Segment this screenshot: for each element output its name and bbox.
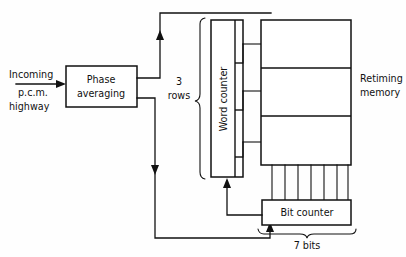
diagram-canvas: Incoming p.c.m. highway Phase averaging … bbox=[0, 0, 406, 257]
wordcounter-to-memory-stubs bbox=[243, 44, 261, 157]
retiming-memory-block bbox=[261, 20, 351, 165]
retiming-memory-label-line2: memory bbox=[360, 87, 400, 98]
word-counter-label: Word counter bbox=[218, 67, 229, 132]
wire-phase-to-wordcounter-top bbox=[137, 13, 271, 78]
rows-brace bbox=[195, 18, 205, 179]
block-diagram: Incoming p.c.m. highway Phase averaging … bbox=[0, 0, 406, 257]
incoming-label-line3: highway bbox=[9, 101, 50, 112]
wire-phase-to-bitcounter-bottom bbox=[137, 98, 274, 238]
phase-averaging-label-line1: Phase bbox=[87, 74, 116, 85]
phase-averaging-label-line2: averaging bbox=[77, 88, 125, 99]
phase-averaging-block bbox=[66, 66, 137, 107]
bit-counter-label: Bit counter bbox=[281, 207, 334, 218]
rows-word-label: rows bbox=[168, 90, 190, 101]
bits-label: 7 bits bbox=[294, 240, 321, 251]
incoming-label-line2: p.c.m. bbox=[18, 87, 48, 98]
retiming-memory-label-line1: Retiming bbox=[360, 73, 403, 84]
rows-count-label: 3 bbox=[176, 76, 182, 87]
wire-bitcounter-to-wordcounter bbox=[223, 178, 262, 215]
incoming-label-line1: Incoming bbox=[9, 69, 53, 80]
bit-bus-lines bbox=[272, 165, 348, 200]
